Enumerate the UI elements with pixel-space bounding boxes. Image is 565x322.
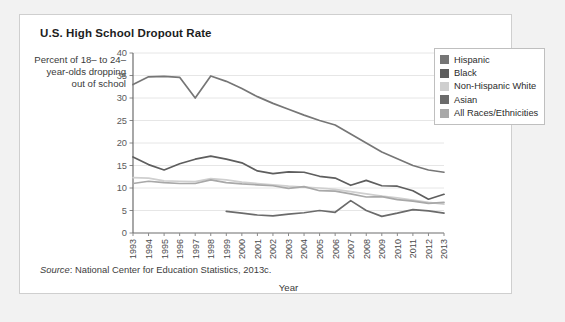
x-axis-tick-label: 1998 [206, 239, 216, 259]
x-axis-tick-label: 2011 [408, 239, 418, 258]
x-axis-tick-label: 2002 [268, 239, 278, 259]
source-label: Source [40, 264, 70, 275]
x-axis-tick-label: 2000 [237, 239, 247, 259]
y-axis-tick-label: 5 [122, 206, 127, 216]
y-axis-tick-label: 35 [117, 71, 127, 81]
x-axis-tick-label: 2001 [253, 239, 263, 259]
legend-item: All Races/Ethnicities [440, 107, 538, 120]
legend-item: Non-Hispanic White [440, 80, 538, 93]
x-axis-tick-label: 1993 [128, 239, 138, 259]
chart-legend: HispanicBlackNon-Hispanic WhiteAsianAll … [434, 48, 545, 125]
legend-swatch-icon [440, 69, 449, 78]
x-axis-tick-label: 2012 [424, 239, 434, 259]
y-axis-tick-label: 0 [122, 228, 127, 238]
x-axis-title: Year [279, 282, 299, 293]
legend-swatch-icon [440, 82, 449, 91]
series-line [133, 76, 444, 172]
x-axis-tick-label: 1994 [144, 239, 154, 259]
x-axis-tick-label: 1995 [160, 239, 170, 259]
legend-item-label: Non-Hispanic White [454, 81, 536, 91]
y-axis-tick-label: 40 [117, 48, 127, 58]
legend-item: Hispanic [440, 53, 538, 66]
chart-card: U.S. High School Dropout Rate Percent of… [19, 14, 512, 294]
y-axis-tick-label: 15 [117, 161, 127, 171]
source-text: : National Center for Education Statisti… [70, 264, 272, 275]
x-axis-tick-label: 1996 [175, 239, 185, 259]
y-axis-tick-label: 30 [117, 93, 127, 103]
y-axis-tick-label: 25 [117, 116, 127, 126]
x-axis-tick-label: 1997 [191, 239, 201, 259]
legend-item: Black [440, 66, 538, 79]
series-line [226, 201, 444, 217]
page-background: U.S. High School Dropout Rate Percent of… [0, 0, 565, 322]
x-axis-tick-label: 2010 [393, 239, 403, 259]
series-line [133, 180, 444, 203]
x-axis-tick-label: 2007 [346, 239, 356, 259]
legend-item-label: Hispanic [454, 55, 490, 65]
legend-item-label: All Races/Ethnicities [454, 108, 538, 118]
legend-item: Asian [440, 93, 538, 106]
legend-swatch-icon [440, 55, 449, 64]
x-axis-tick-label: 2013 [439, 239, 449, 259]
x-axis-tick-label: 2005 [315, 239, 325, 259]
y-axis-tick-label: 10 [117, 183, 127, 193]
series-line [133, 156, 444, 199]
x-axis-tick-label: 1999 [222, 239, 232, 259]
y-axis-tick-label: 20 [117, 138, 127, 148]
legend-swatch-icon [440, 109, 449, 118]
source-note: Source: National Center for Education St… [40, 264, 271, 275]
x-axis-tick-label: 2006 [331, 239, 341, 259]
legend-item-label: Black [454, 68, 477, 78]
x-axis-tick-label: 2009 [377, 239, 387, 259]
legend-swatch-icon [440, 95, 449, 104]
legend-item-label: Asian [454, 95, 477, 105]
x-axis-tick-label: 2003 [284, 239, 294, 259]
x-axis-tick-label: 2008 [362, 239, 372, 259]
x-axis-tick-label: 2004 [299, 239, 309, 259]
